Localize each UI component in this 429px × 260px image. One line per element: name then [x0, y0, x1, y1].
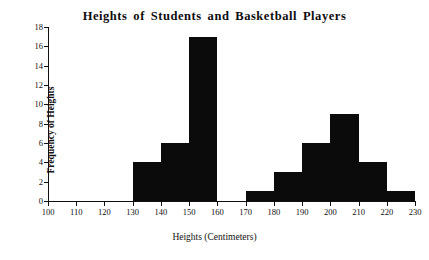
x-tick-label: 130	[126, 208, 139, 217]
y-tick-mark	[44, 162, 48, 163]
x-tick-label: 180	[267, 208, 280, 217]
histogram-figure: Heights of Students and Basketball Playe…	[0, 0, 429, 260]
y-tick-mark	[44, 104, 48, 105]
x-tick-mark	[415, 201, 416, 206]
y-tick-mark	[44, 27, 48, 28]
x-axis-title: Heights (Centimeters)	[0, 232, 429, 242]
y-tick-label: 14	[35, 61, 44, 70]
x-tick-mark	[133, 201, 134, 206]
histogram-bar	[330, 114, 358, 201]
x-tick-mark	[246, 201, 247, 206]
y-tick-mark	[44, 46, 48, 47]
y-tick-label: 6	[39, 139, 43, 148]
y-tick-mark	[44, 143, 48, 144]
x-tick-mark	[161, 201, 162, 206]
x-tick-mark	[189, 201, 190, 206]
histogram-bar	[246, 191, 274, 201]
x-tick-mark	[359, 201, 360, 206]
y-tick-label: 16	[35, 42, 44, 51]
y-tick-label: 2	[39, 177, 43, 186]
x-tick-label: 170	[239, 208, 252, 217]
y-tick-label: 8	[39, 119, 43, 128]
x-tick-label: 150	[183, 208, 196, 217]
y-tick-label: 18	[35, 23, 44, 32]
histogram-bar	[302, 143, 330, 201]
x-tick-label: 100	[42, 208, 55, 217]
x-tick-mark	[217, 201, 218, 206]
x-tick-label: 160	[211, 208, 224, 217]
x-tick-mark	[104, 201, 105, 206]
x-tick-mark	[387, 201, 388, 206]
histogram-bar	[359, 162, 387, 201]
x-tick-label: 120	[98, 208, 111, 217]
y-tick-label: 10	[35, 100, 44, 109]
histogram-bar	[387, 191, 415, 201]
y-axis-line	[48, 27, 49, 202]
y-tick-mark	[44, 85, 48, 86]
y-tick-label: 4	[39, 158, 43, 167]
x-tick-label: 140	[155, 208, 168, 217]
x-tick-label: 110	[70, 208, 82, 217]
chart-title: Heights of Students and Basketball Playe…	[0, 9, 429, 24]
y-tick-label: 0	[39, 197, 43, 206]
x-tick-mark	[302, 201, 303, 206]
x-tick-mark	[76, 201, 77, 206]
x-tick-mark	[48, 201, 49, 206]
histogram-bar	[274, 172, 302, 201]
plot-area: 024681012141618 100110120130140150160170…	[48, 27, 415, 201]
x-tick-label: 230	[409, 208, 422, 217]
x-tick-label: 190	[296, 208, 309, 217]
x-tick-label: 220	[380, 208, 393, 217]
x-axis-line	[48, 201, 416, 202]
histogram-bar	[189, 37, 217, 201]
x-tick-mark	[330, 201, 331, 206]
x-tick-label: 210	[352, 208, 365, 217]
y-tick-mark	[44, 124, 48, 125]
y-tick-mark	[44, 66, 48, 67]
x-tick-mark	[274, 201, 275, 206]
y-tick-label: 12	[35, 81, 44, 90]
y-tick-mark	[44, 182, 48, 183]
x-tick-label: 200	[324, 208, 337, 217]
histogram-bar	[161, 143, 189, 201]
histogram-bar	[133, 162, 161, 201]
